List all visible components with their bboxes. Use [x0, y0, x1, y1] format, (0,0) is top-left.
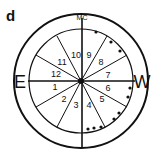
planet-dot: [86, 127, 89, 130]
planet-dot: [112, 117, 115, 120]
house-number-1: 1: [52, 82, 57, 92]
house-number-12: 12: [51, 69, 61, 79]
house-chart-diagram: d MC E W 123456789101112: [0, 0, 157, 159]
house-number-4: 4: [86, 100, 91, 110]
west-label: W: [134, 72, 151, 92]
house-number-8: 8: [98, 57, 103, 67]
planet-dot: [126, 95, 129, 98]
house-number-3: 3: [73, 100, 78, 110]
panel-label: d: [6, 7, 15, 24]
mc-label: MC: [77, 14, 88, 21]
planet-dot: [94, 30, 97, 33]
east-label: E: [14, 72, 26, 92]
house-number-10: 10: [71, 50, 81, 60]
planet-dot: [99, 125, 102, 128]
planet-dot: [117, 111, 120, 114]
house-number-11: 11: [57, 57, 66, 67]
house-number-9: 9: [86, 50, 91, 60]
planet-dot: [128, 86, 131, 89]
house-number-2: 2: [61, 94, 66, 104]
planet-dot: [109, 40, 112, 43]
planet-dot: [92, 126, 95, 129]
center-hub: [78, 78, 84, 84]
planet-dot: [118, 49, 121, 52]
house-number-7: 7: [105, 70, 110, 80]
house-number-6: 6: [105, 83, 110, 93]
house-number-5: 5: [99, 94, 104, 104]
